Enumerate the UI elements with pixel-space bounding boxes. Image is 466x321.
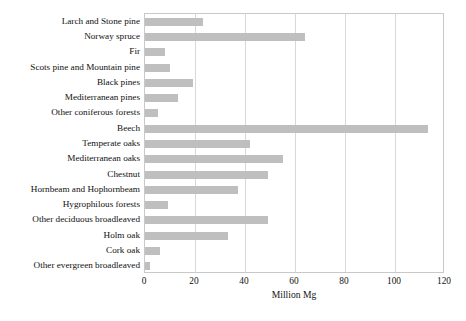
bar-row bbox=[145, 259, 443, 274]
bar bbox=[145, 262, 150, 270]
bar bbox=[145, 201, 168, 209]
category-label: Beech bbox=[0, 123, 140, 133]
bar bbox=[145, 109, 158, 117]
category-label: Other coniferous forests bbox=[0, 107, 140, 117]
bar bbox=[145, 64, 170, 72]
category-label: Temperate oaks bbox=[0, 138, 140, 148]
category-label: Mediterranean oaks bbox=[0, 153, 140, 163]
bar-row bbox=[145, 90, 443, 105]
category-label: Chestnut bbox=[0, 169, 140, 179]
category-label: Scots pine and Mountain pine bbox=[0, 62, 140, 72]
bar bbox=[145, 125, 428, 133]
bar-row bbox=[145, 152, 443, 167]
bar bbox=[145, 171, 268, 179]
x-tick-label: 0 bbox=[142, 275, 147, 287]
category-label: Fir bbox=[0, 46, 140, 56]
bar bbox=[145, 18, 203, 26]
bar-row bbox=[145, 29, 443, 44]
category-label: Black pines bbox=[0, 77, 140, 87]
bar-row bbox=[145, 182, 443, 197]
category-axis-labels: Larch and Stone pineNorway spruceFirScot… bbox=[0, 13, 140, 273]
bar-row bbox=[145, 228, 443, 243]
bar-row bbox=[145, 243, 443, 258]
bar-row bbox=[145, 45, 443, 60]
bar-chart: Larch and Stone pineNorway spruceFirScot… bbox=[0, 0, 466, 321]
bar bbox=[145, 216, 268, 224]
bar bbox=[145, 94, 178, 102]
bar bbox=[145, 247, 160, 255]
bar-row bbox=[145, 136, 443, 151]
x-tick-label: 100 bbox=[387, 275, 401, 287]
bar bbox=[145, 33, 305, 41]
category-label: Hornbeam and Hophornbeam bbox=[0, 184, 140, 194]
category-label: Other evergreen broadleaved bbox=[0, 260, 140, 270]
bar bbox=[145, 155, 283, 163]
bar-row bbox=[145, 75, 443, 90]
category-label: Norway spruce bbox=[0, 31, 140, 41]
x-axis-tick-labels: 020406080100120 bbox=[144, 275, 444, 289]
bar-row bbox=[145, 106, 443, 121]
bar bbox=[145, 186, 238, 194]
x-tick-label: 20 bbox=[189, 275, 198, 287]
bar-rows bbox=[145, 14, 443, 272]
category-label: Holm oak bbox=[0, 230, 140, 240]
plot-area bbox=[144, 13, 444, 273]
bar bbox=[145, 140, 250, 148]
bar-row bbox=[145, 167, 443, 182]
x-tick-label: 40 bbox=[239, 275, 248, 287]
bar bbox=[145, 48, 165, 56]
bar-row bbox=[145, 121, 443, 136]
category-label: Hygrophilous forests bbox=[0, 199, 140, 209]
bar-row bbox=[145, 14, 443, 29]
x-axis-title: Million Mg bbox=[144, 289, 444, 300]
bar-row bbox=[145, 213, 443, 228]
x-tick-label: 80 bbox=[339, 275, 348, 287]
bar-row bbox=[145, 60, 443, 75]
bar bbox=[145, 79, 193, 87]
x-tick-label: 120 bbox=[437, 275, 451, 287]
category-label: Other deciduous broadleaved bbox=[0, 214, 140, 224]
bar bbox=[145, 232, 228, 240]
category-label: Mediterranean pines bbox=[0, 92, 140, 102]
category-label: Cork oak bbox=[0, 245, 140, 255]
x-tick-label: 60 bbox=[289, 275, 298, 287]
category-label: Larch and Stone pine bbox=[0, 16, 140, 26]
bar-row bbox=[145, 198, 443, 213]
